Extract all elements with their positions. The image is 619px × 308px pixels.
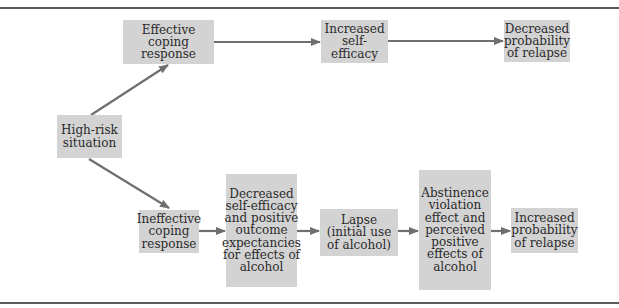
node-decreased-probability-of-relapse: Decreased probability of relapse <box>504 20 570 62</box>
node-high-risk-situation: High-risk situation <box>57 115 122 158</box>
node-increased-self-efficacy: Increased self-efficacy <box>321 20 388 63</box>
node-effective-coping-response: Effective coping response <box>123 20 214 64</box>
node-decreased-self-efficacy-expectancies: Decreased self-efficacy and positive out… <box>226 174 297 287</box>
node-label: High-risk situation <box>60 124 119 148</box>
node-label: Ineffective coping response <box>137 213 201 250</box>
arrow-highrisk-to-ineffective <box>89 159 169 208</box>
node-lapse: Lapse (initial use of alcohol) <box>320 209 398 256</box>
node-label: Effective coping response <box>126 24 211 61</box>
arrow-highrisk-to-effective <box>91 65 168 115</box>
node-label: Abstinence violation effect and perceive… <box>421 187 489 272</box>
node-label: Decreased self-efficacy and positive out… <box>222 188 301 273</box>
node-increased-probability-of-relapse: Increased probability of relapse <box>511 208 578 253</box>
relapse-model-diagram: High-risk situation Effective coping res… <box>0 0 619 308</box>
node-label: Increased self-efficacy <box>324 23 385 60</box>
node-label: Lapse (initial use of alcohol) <box>323 214 395 251</box>
node-abstinence-violation-effect: Abstinence violation effect and perceive… <box>419 170 491 290</box>
node-label: Decreased probability of relapse <box>504 23 570 60</box>
node-label: Increased probability of relapse <box>511 212 577 249</box>
node-ineffective-coping-response: Ineffective coping response <box>139 210 199 253</box>
